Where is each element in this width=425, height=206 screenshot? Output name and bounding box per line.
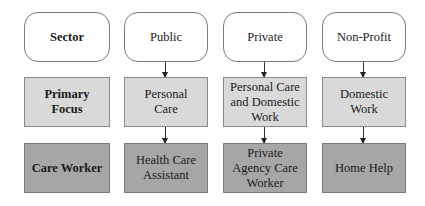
sector-non-profit: Non-Profit (322, 12, 406, 62)
worker-private-text: Private Agency Care Worker (228, 146, 302, 191)
focus-private: Personal Care and Domestic Work (223, 77, 307, 127)
focus-non-profit-text: Domestic Work (339, 87, 389, 117)
focus-private-text: Personal Care and Domestic Work (228, 80, 302, 125)
row-label-sector-text: Sector (50, 30, 84, 45)
sector-private-text: Private (247, 30, 282, 45)
sector-public: Public (124, 12, 208, 62)
row-label-care-worker: Care Worker (24, 143, 110, 193)
arrow-icon (264, 62, 265, 77)
focus-non-profit: Domestic Work (322, 77, 406, 127)
focus-public: Personal Care (124, 77, 208, 127)
focus-public-text: Personal Care (139, 87, 193, 117)
worker-public-text: Health Care Assistant (133, 153, 199, 183)
sector-non-profit-text: Non-Profit (337, 30, 391, 45)
row-label-primary-focus: Primary Focus (24, 77, 110, 127)
arrow-icon (165, 127, 166, 143)
worker-non-profit: Home Help (322, 143, 406, 193)
sector-private: Private (223, 12, 307, 62)
row-label-care-worker-text: Care Worker (32, 161, 103, 176)
worker-non-profit-text: Home Help (335, 161, 393, 176)
worker-private: Private Agency Care Worker (223, 143, 307, 193)
arrow-icon (363, 127, 364, 143)
arrow-icon (165, 62, 166, 77)
sector-public-text: Public (150, 30, 182, 45)
worker-public: Health Care Assistant (124, 143, 208, 193)
row-label-sector: Sector (24, 12, 110, 62)
arrow-icon (264, 127, 265, 143)
arrow-icon (363, 62, 364, 77)
row-label-primary-focus-text: Primary Focus (44, 87, 89, 117)
